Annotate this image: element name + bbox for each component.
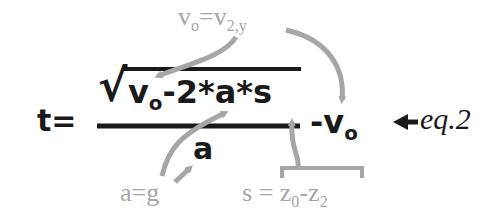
numerator-v: v — [128, 73, 149, 111]
arrow-top-to-tail-vo — [286, 30, 342, 100]
bracket-z — [282, 168, 362, 178]
annot-s-eq: = — [259, 178, 274, 207]
equation-diagram: vo=v2,y t= √ vo-2*a*s a -vo eq.2 a=g s =… — [0, 0, 500, 224]
tail-v: v — [323, 103, 344, 141]
annot-eq: = — [199, 2, 214, 31]
arrow-s-to-s — [292, 122, 299, 168]
equation-label: eq.2 — [420, 104, 471, 134]
annot-v2y-base: v — [214, 2, 227, 31]
annot-vo-sub: o — [191, 17, 199, 34]
sqrt-symbol: √ — [98, 64, 127, 108]
tail-minus: - — [310, 103, 323, 141]
tail-v-sub: o — [344, 122, 358, 145]
denominator: a — [193, 134, 213, 164]
eq-pointer-head — [393, 114, 408, 130]
equation-lhs: t= — [37, 106, 76, 136]
numerator: vo-2*a*s — [128, 76, 272, 108]
annotation-s-equals-z: s = z0-z2 — [242, 180, 328, 206]
annot-minus: - — [299, 178, 308, 207]
annotation-a-equals-g: a=g — [120, 180, 159, 206]
numerator-v-sub: o — [149, 92, 163, 115]
arrow-g-to-a-den — [175, 168, 190, 182]
annot-z2: z — [308, 178, 320, 207]
annot-s: s — [242, 178, 252, 207]
annotation-vo-equals-v2y: vo=v2,y — [178, 4, 247, 30]
annot-z2-sub: 2 — [320, 193, 328, 210]
equation-tail: -vo — [310, 106, 358, 138]
annot-vo-base: v — [178, 2, 191, 31]
annot-z0: z — [280, 178, 292, 207]
annot-v2y-sub: 2,y — [227, 17, 247, 34]
numerator-rest: -2*a*s — [162, 73, 272, 111]
